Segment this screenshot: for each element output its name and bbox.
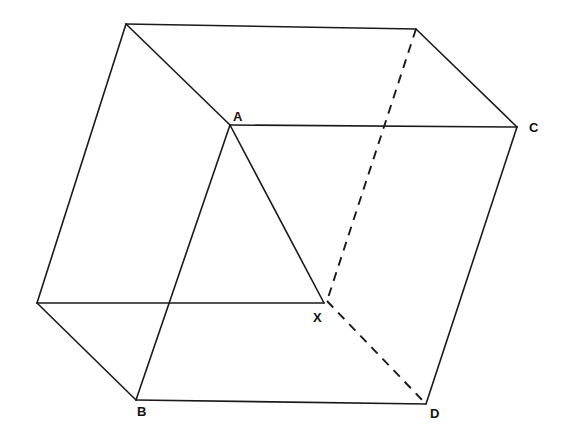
vertex-label-c: C: [529, 121, 539, 134]
diagram-canvas: ACXBD: [0, 0, 565, 437]
edge-top-back: [126, 24, 416, 29]
vertex-label-a: A: [233, 110, 243, 123]
vertex-label-b: B: [137, 405, 147, 418]
edge-top-left-to-lm: [37, 24, 126, 303]
edge-top-left-to-a: [126, 24, 230, 125]
hidden-edge-top-right-to-x: [327, 29, 416, 301]
dashed-edge-group: [327, 29, 426, 404]
edge-top-right-to-c: [416, 29, 517, 127]
vertex-label-d: D: [430, 407, 440, 420]
solid-edge-group: [37, 24, 517, 404]
vertex-label-x: X: [313, 311, 322, 324]
edge-a-to-x: [230, 125, 324, 303]
edge-c-to-d: [426, 127, 517, 404]
edge-lm-to-b: [37, 303, 136, 400]
cube-diagram-svg: [0, 0, 565, 437]
edge-b-to-d: [136, 400, 426, 404]
edge-a-to-b: [136, 125, 230, 400]
hidden-edge-x-to-d: [327, 301, 426, 404]
edge-a-to-c: [230, 125, 517, 127]
